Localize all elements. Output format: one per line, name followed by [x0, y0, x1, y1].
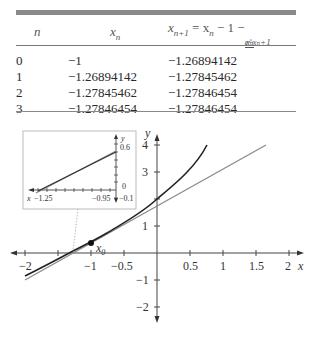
x0-point — [88, 240, 94, 246]
x-tick-label: 1.5 — [249, 259, 264, 273]
y-axis-label: y — [144, 126, 151, 140]
x-tick-label: 1 — [220, 259, 226, 273]
inset-leader-line — [73, 209, 78, 251]
y-tick-label: 1 — [142, 219, 148, 233]
inset-y-axis-label: y — [120, 134, 125, 143]
x-tick-labels: −2 −1 −0.5 0.5 1 1.5 2 x — [19, 259, 304, 273]
y-axis-down-arrow-icon — [155, 316, 160, 323]
x0-label: x0 — [95, 241, 105, 257]
x-axis-right-arrow-icon — [297, 251, 304, 256]
y-tick-label: 4 — [142, 138, 148, 152]
inset-x-tick-label: −0.95 — [92, 194, 111, 203]
y-tick-label: 3 — [142, 165, 148, 179]
x-axis-left-arrow-icon — [10, 251, 17, 256]
y-tick-label: −1 — [136, 273, 149, 287]
x-tick-label: 2 — [285, 259, 291, 273]
newton-graph: −2 −1 −0.5 0.5 1 1.5 2 x 4 3 1 −1 −2 y x… — [0, 0, 320, 337]
inset-y-tick-label: 0.6 — [120, 143, 130, 152]
inset-x-axis-label: x — [26, 194, 31, 203]
inset-x-tick-label: −1.25 — [34, 194, 53, 203]
x-tick-label: −1 — [84, 259, 97, 273]
inset-y-tick-label: 0 — [122, 182, 126, 191]
x-axis-label: x — [297, 259, 304, 273]
x-tick-label: −2 — [19, 259, 32, 273]
y-axis-up-arrow-icon — [155, 134, 160, 141]
x-tick-label: −0.5 — [111, 259, 133, 273]
y-tick-labels: 4 3 1 −1 −2 y — [136, 126, 151, 314]
inset-y-tick-label: −0.1 — [119, 194, 134, 203]
y-tick-label: −2 — [136, 300, 149, 314]
x-tick-label: 0.5 — [183, 259, 198, 273]
